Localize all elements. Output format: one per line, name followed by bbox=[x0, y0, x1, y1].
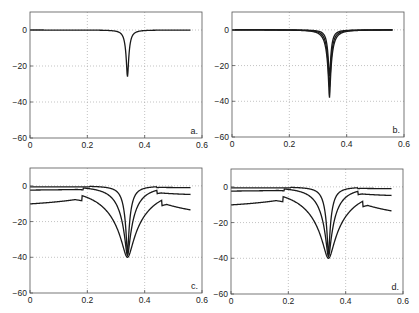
subplot-a: 00.20.40.60−20−40−60a. bbox=[13, 12, 209, 150]
x-tick-label: 0 bbox=[229, 296, 234, 306]
y-tick-label: −40 bbox=[13, 252, 28, 262]
y-tick-label: 0 bbox=[22, 25, 27, 35]
x-tick-label: 0 bbox=[230, 139, 235, 149]
x-tick-label: 0.4 bbox=[341, 139, 353, 149]
x-tick-label: 0.2 bbox=[283, 139, 295, 149]
data-curve bbox=[232, 30, 393, 76]
x-tick-label: 0.6 bbox=[196, 140, 208, 150]
y-tick-label: −60 bbox=[215, 132, 230, 142]
y-tick-label: −60 bbox=[13, 288, 28, 298]
data-curve bbox=[231, 197, 392, 259]
y-tick-label: 0 bbox=[22, 181, 27, 191]
y-tick-label: −60 bbox=[13, 133, 28, 143]
x-tick-label: 0.4 bbox=[139, 140, 151, 150]
panel-label: b. bbox=[392, 125, 400, 135]
y-tick-label: −40 bbox=[214, 253, 229, 263]
panel-label: a. bbox=[190, 126, 198, 136]
subplot-d: 00.20.40.60−20−40−60d. bbox=[214, 169, 410, 306]
y-tick-label: −20 bbox=[214, 218, 229, 228]
y-tick-label: 0 bbox=[224, 25, 229, 35]
y-tick-label: −40 bbox=[215, 96, 230, 106]
data-curve bbox=[232, 30, 393, 98]
y-tick-label: −60 bbox=[214, 289, 229, 299]
y-tick-label: 0 bbox=[223, 182, 228, 192]
subplot-c: 00.20.40.60−20−40−60c. bbox=[13, 168, 209, 305]
x-tick-label: 0.4 bbox=[340, 296, 352, 306]
x-tick-label: 0.6 bbox=[397, 296, 409, 306]
y-tick-label: −20 bbox=[215, 61, 230, 71]
panel-label: c. bbox=[191, 281, 198, 291]
x-tick-label: 0.2 bbox=[81, 140, 93, 150]
data-curve bbox=[232, 30, 393, 87]
subplot-b: 00.20.40.60−20−40−60b. bbox=[215, 12, 411, 149]
panel-label: d. bbox=[391, 282, 399, 292]
x-tick-label: 0 bbox=[28, 140, 33, 150]
x-tick-label: 0.6 bbox=[196, 295, 208, 305]
x-tick-label: 0.2 bbox=[81, 295, 93, 305]
x-tick-label: 0 bbox=[28, 295, 33, 305]
x-tick-label: 0.4 bbox=[139, 295, 151, 305]
x-tick-label: 0.6 bbox=[398, 139, 410, 149]
y-tick-label: −40 bbox=[13, 97, 28, 107]
data-curve bbox=[30, 30, 191, 77]
figure-four-panels: 00.20.40.60−20−40−60a. 00.20.40.60−20−40… bbox=[0, 0, 419, 313]
y-tick-label: −20 bbox=[13, 61, 28, 71]
x-tick-label: 0.2 bbox=[282, 296, 294, 306]
data-curve bbox=[30, 196, 191, 258]
y-tick-label: −20 bbox=[13, 217, 28, 227]
